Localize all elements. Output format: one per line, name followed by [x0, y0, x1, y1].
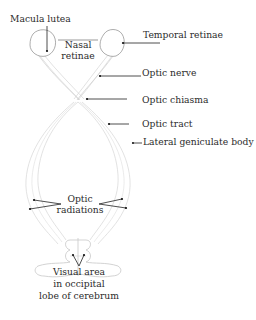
left-eye — [30, 30, 56, 57]
label-visual-area-2: in occipital — [53, 278, 105, 289]
right-eye — [100, 30, 124, 57]
marker-optic-chiasma — [86, 98, 88, 100]
label-lateral-geniculate-body: Lateral geniculate body — [143, 136, 254, 147]
visual-pathway-diagram: Macula lutea Nasal retinae Temporal reti… — [0, 0, 256, 320]
label-optic-radiations-2: radiations — [57, 204, 104, 215]
optic-tract-fibers — [26, 102, 130, 244]
marker-lateral-geniculate-body — [132, 142, 134, 144]
label-optic-radiations-1: Optic — [67, 193, 92, 204]
label-visual-area-1: Visual area — [52, 266, 106, 277]
label-macula-lutea: Macula lutea — [10, 13, 71, 24]
marker-macula-lutea — [46, 50, 48, 52]
label-temporal-retinae: Temporal retinae — [143, 29, 223, 40]
label-optic-chiasma: Optic chiasma — [142, 94, 209, 105]
marker-optic-tract — [108, 123, 110, 125]
label-optic-nerve: Optic nerve — [142, 67, 196, 78]
optic-nerve-fibers — [39, 55, 113, 100]
label-nasal-retinae-1: Nasal — [65, 39, 92, 50]
label-optic-tract: Optic tract — [142, 118, 193, 129]
marker-optic-nerve — [99, 75, 101, 77]
label-visual-area-3: lobe of cerebrum — [39, 290, 119, 301]
label-nasal-retinae-2: retinae — [61, 50, 94, 61]
marker-temporal-retinae — [122, 42, 124, 44]
